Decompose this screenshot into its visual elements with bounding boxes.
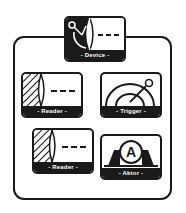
- reader-label-2: - Reader -: [34, 162, 92, 172]
- trigger-lever-icon: [102, 74, 160, 106]
- aktor-a-icon: A: [102, 136, 160, 168]
- device-node: - Device -: [64, 16, 126, 62]
- reader-lens-icon: [23, 74, 81, 106]
- svg-text:A: A: [126, 144, 136, 160]
- reader-label-1: - Reader -: [23, 106, 81, 116]
- aktor-label: - Aktor -: [102, 168, 160, 178]
- reader-lens-icon: [34, 130, 92, 162]
- reader-node-1: - Reader -: [21, 72, 83, 118]
- device-label: - Device -: [66, 50, 124, 60]
- trigger-label: - Trigger -: [102, 106, 160, 116]
- trigger-node: - Trigger -: [100, 72, 162, 118]
- reader-node-2: - Reader -: [32, 128, 94, 174]
- device-lens-icon: [66, 18, 124, 50]
- aktor-node: A - Aktor -: [100, 134, 162, 180]
